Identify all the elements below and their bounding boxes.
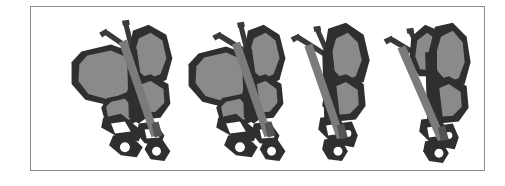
butterfly-group-4 <box>384 23 471 163</box>
butterfly-group-2 <box>189 22 286 161</box>
figure-root: Four grayscale clip-art views of a butte… <box>0 0 505 186</box>
figure-canvas <box>31 7 484 170</box>
butterfly-illustration-3 <box>286 7 391 170</box>
butterfly-view-4 <box>381 7 491 170</box>
butterfly-view-3 <box>286 7 391 170</box>
butterfly-illustration-4 <box>381 7 491 170</box>
figure-border-frame <box>30 6 485 171</box>
butterfly-view-2 <box>176 7 296 170</box>
butterfly-group-3 <box>291 23 370 161</box>
butterfly-view-1 <box>51 7 181 170</box>
butterfly-illustration-2 <box>176 7 296 170</box>
butterfly-group-1 <box>72 20 173 161</box>
butterfly-illustration-1 <box>51 7 181 170</box>
